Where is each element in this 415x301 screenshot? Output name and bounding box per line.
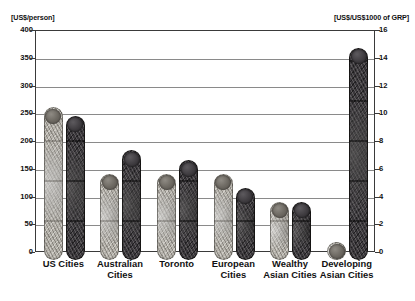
- bar-left-axis: [44, 107, 63, 260]
- right-tick-label: 10: [379, 109, 387, 117]
- cylinder-cap: [272, 203, 288, 218]
- cylinder-cap: [102, 175, 118, 190]
- right-tick-mark: [375, 197, 380, 198]
- bar-group: [263, 31, 320, 251]
- cylinder-bands: [122, 150, 141, 260]
- right-tick-mark: [375, 113, 380, 114]
- bar-right-axis: [66, 116, 85, 260]
- cylinder-bands: [157, 174, 176, 260]
- right-tick-mark: [375, 252, 380, 253]
- category-label: Developing Asian Cities: [310, 258, 383, 280]
- cylinder-bands: [349, 48, 368, 260]
- bar-group: [93, 31, 150, 251]
- cylinder-cap: [124, 152, 140, 167]
- cylinder-cap: [351, 49, 367, 64]
- bar-group: [319, 31, 376, 251]
- cylinder-bands: [44, 107, 63, 260]
- transport-cost-bar-chart: [US$/person] [US$/US$1000 of GRP] 400350…: [0, 0, 415, 301]
- bar-group: [36, 31, 93, 251]
- right-tick-mark: [375, 169, 380, 170]
- right-axis-unit-caption: [US$/US$1000 of GRP]: [334, 13, 409, 22]
- right-tick-mark: [375, 141, 380, 142]
- right-tick-mark: [375, 30, 380, 31]
- bar-group: [206, 31, 263, 251]
- cylinder-bands: [100, 174, 119, 260]
- bar-right-axis: [179, 160, 198, 260]
- cylinder-bands: [66, 116, 85, 260]
- cylinder-cap: [215, 175, 231, 190]
- left-tick-mark: [30, 58, 35, 59]
- left-tick-mark: [30, 197, 35, 198]
- cylinder-bands: [236, 188, 255, 260]
- left-tick-mark: [30, 169, 35, 170]
- right-tick-label: 14: [379, 54, 387, 62]
- left-tick-mark: [30, 113, 35, 114]
- cylinder-bands: [270, 202, 289, 260]
- cylinder-cap: [237, 189, 253, 204]
- left-tick-mark: [30, 141, 35, 142]
- plot-area: [35, 30, 375, 252]
- bar-right-axis: [236, 188, 255, 260]
- bar-left-axis: [214, 174, 233, 260]
- left-axis-unit-caption: [US$/person]: [11, 13, 55, 22]
- cylinder-cap: [329, 244, 345, 259]
- bar-right-axis: [349, 48, 368, 260]
- cylinder-cap: [45, 109, 61, 124]
- cylinder-bands: [179, 160, 198, 260]
- bar-right-axis: [122, 150, 141, 260]
- cylinder-cap: [159, 175, 175, 190]
- cylinder-bands: [214, 174, 233, 260]
- bar-left-axis: [157, 174, 176, 260]
- bar-left-axis: [270, 202, 289, 260]
- right-tick-mark: [375, 58, 380, 59]
- left-tick-mark: [30, 252, 35, 253]
- right-tick-mark: [375, 86, 380, 87]
- right-tick-label: 12: [379, 82, 387, 90]
- right-tick-label: 16: [379, 26, 387, 34]
- cylinder-bands: [292, 202, 311, 260]
- left-tick-mark: [30, 224, 35, 225]
- cylinder-cap: [67, 117, 83, 132]
- cylinder-cap: [294, 203, 310, 218]
- bar-right-axis: [292, 202, 311, 260]
- bar-left-axis: [100, 174, 119, 260]
- bar-group: [149, 31, 206, 251]
- left-tick-mark: [30, 30, 35, 31]
- right-tick-mark: [375, 224, 380, 225]
- left-tick-mark: [30, 86, 35, 87]
- cylinder-cap: [181, 162, 197, 177]
